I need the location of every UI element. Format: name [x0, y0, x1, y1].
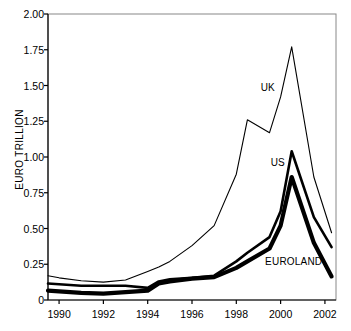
- plot-area: [0, 0, 351, 331]
- x-axis-tick-label: 1998: [225, 308, 248, 320]
- x-axis-tick-label: 2000: [269, 308, 292, 320]
- x-axis-tick-label: 1994: [136, 308, 159, 320]
- x-axis-tick-label: 2002: [313, 308, 336, 320]
- chart-container: EURO TRILLION 00.250.500.751.001.251.501…: [0, 0, 351, 331]
- series-label-us: US: [271, 157, 285, 168]
- series-label-uk: UK: [261, 82, 275, 93]
- x-axis-tick-label: 1990: [47, 308, 70, 320]
- x-axis-tick-label: 1992: [92, 308, 115, 320]
- series-label-euroland: EUROLAND: [265, 256, 322, 267]
- x-axis-tick-label: 1996: [180, 308, 203, 320]
